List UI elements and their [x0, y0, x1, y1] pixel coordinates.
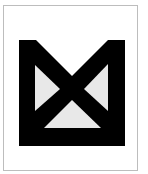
logo-mark — [19, 40, 125, 146]
bowtie-frame-logo-icon — [0, 0, 148, 174]
